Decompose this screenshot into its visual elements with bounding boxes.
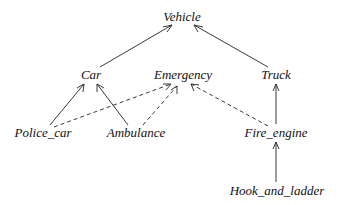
inheritance-diagram: Vehicle Car Emergency Truck Police_car A…: [0, 0, 340, 205]
edge-ambulance-emergency: [143, 86, 177, 125]
node-hook-and-ladder: Hook_and_ladder: [229, 183, 326, 198]
node-ambulance: Ambulance: [106, 125, 166, 140]
edge-truck-vehicle: [194, 25, 268, 67]
node-truck: Truck: [261, 67, 291, 82]
node-car: Car: [81, 67, 102, 82]
node-vehicle: Vehicle: [163, 9, 201, 24]
edges: [50, 25, 279, 182]
edge-ambulance-car: [97, 84, 128, 125]
node-fire-engine: Fire_engine: [243, 125, 307, 140]
edge-fire-engine-emergency: [191, 84, 268, 126]
arrowhead-icon: [163, 84, 171, 90]
edge-car-vehicle: [100, 25, 172, 67]
nodes: Vehicle Car Emergency Truck Police_car A…: [13, 9, 325, 198]
edge-police-car-car: [50, 84, 84, 125]
node-police-car: Police_car: [13, 125, 72, 140]
edge-police-car-emergency: [54, 84, 171, 127]
diagram-svg: Vehicle Car Emergency Truck Police_car A…: [0, 0, 340, 205]
node-emergency: Emergency: [153, 67, 212, 82]
